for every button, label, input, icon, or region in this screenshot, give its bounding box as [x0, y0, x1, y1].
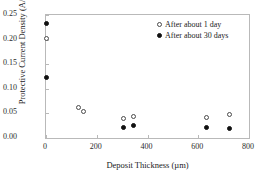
data-point — [121, 125, 126, 130]
chart-legend: After about 1 dayAfter about 30 days — [157, 19, 228, 41]
y-tick-label: 0.10 — [0, 84, 17, 92]
data-point — [44, 36, 49, 41]
data-point — [204, 115, 209, 120]
y-tick-label: 0.05 — [0, 108, 17, 116]
data-point — [227, 126, 232, 131]
y-axis-label: Protective Current Density (A/m²) — [17, 0, 27, 111]
data-point — [81, 109, 86, 114]
data-point — [44, 75, 49, 80]
y-tick-label: 0.00 — [0, 133, 17, 141]
x-tick-label: 800 — [228, 143, 268, 151]
y-tick-mark — [46, 89, 49, 90]
filled-circle-icon — [157, 33, 162, 38]
x-axis-label: Deposit Thickness (µm) — [45, 160, 250, 170]
y-tick-mark — [46, 113, 49, 114]
y-tick-label: 0.15 — [0, 59, 17, 67]
data-point — [227, 112, 232, 117]
data-point — [131, 123, 136, 128]
chart-figure: Protective Current Density (A/m²) Deposi… — [0, 0, 268, 183]
x-tick-mark — [249, 135, 250, 138]
x-tick-label: 400 — [127, 143, 167, 151]
data-point — [44, 21, 49, 26]
data-point — [121, 116, 126, 121]
x-tick-mark — [198, 135, 199, 138]
y-tick-mark — [46, 138, 49, 139]
legend-entry: After about 1 day — [157, 19, 228, 30]
x-tick-label: 200 — [76, 143, 116, 151]
legend-label: After about 30 days — [165, 30, 228, 41]
x-tick-mark — [46, 135, 47, 138]
y-tick-mark — [46, 15, 49, 16]
y-tick-label: 0.20 — [0, 35, 17, 43]
x-tick-label: 0 — [25, 143, 65, 151]
x-tick-label: 600 — [177, 143, 217, 151]
data-point — [204, 125, 209, 130]
legend-label: After about 1 day — [165, 19, 221, 30]
data-point — [131, 114, 136, 119]
x-tick-mark — [148, 135, 149, 138]
open-circle-icon — [157, 22, 162, 27]
y-tick-mark — [46, 64, 49, 65]
x-tick-mark — [97, 135, 98, 138]
y-tick-label: 0.25 — [0, 10, 17, 18]
legend-entry: After about 30 days — [157, 30, 228, 41]
